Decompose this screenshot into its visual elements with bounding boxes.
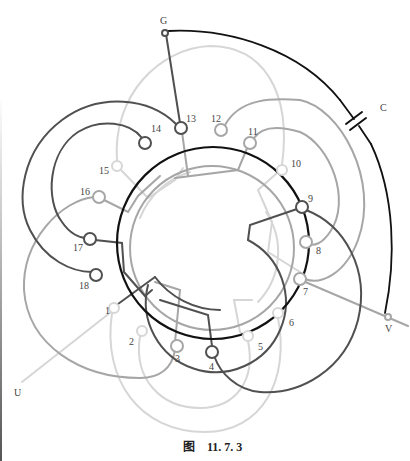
dark-winding-group — [23, 34, 361, 392]
slot-17-node — [84, 233, 96, 245]
label-slot-12: 12 — [211, 113, 221, 124]
lead-g — [166, 34, 180, 123]
light-loop-2-5 — [139, 336, 250, 408]
c-v-bridge — [359, 126, 371, 144]
terminal-v-node — [385, 314, 391, 320]
dark-inner-arc-2 — [155, 277, 220, 310]
label-slot-9: 9 — [308, 193, 313, 204]
label-v: V — [385, 323, 393, 334]
label-slot-16: 16 — [80, 186, 90, 197]
label-g: G — [160, 15, 167, 26]
caption-number: 11. 7. 3 — [207, 440, 242, 454]
slot-1-node — [109, 303, 119, 313]
figure-caption: 图 11. 7. 3 — [183, 440, 242, 454]
label-slot-2: 2 — [129, 336, 134, 347]
label-slot-4: 4 — [209, 361, 214, 372]
slot-14-node — [139, 137, 151, 149]
slot-11-node — [244, 137, 256, 149]
slot-3-node — [171, 340, 183, 352]
slot-2-node — [137, 326, 147, 336]
slot-9-node — [296, 201, 308, 213]
slot-10-node — [277, 165, 287, 175]
slot-12-node — [215, 124, 227, 136]
light-inner-arc — [140, 172, 190, 218]
label-slot-17: 17 — [73, 242, 83, 253]
g-to-c-arc — [168, 31, 340, 100]
dark-loop-9-4 — [215, 210, 361, 392]
label-slot-5: 5 — [258, 341, 263, 352]
slot-7-node — [294, 273, 306, 285]
slot-5-node — [243, 331, 253, 341]
slot-4-node — [206, 346, 218, 358]
label-slot-13: 13 — [186, 113, 196, 124]
label-slot-14: 14 — [151, 123, 161, 134]
slot-8-node — [300, 236, 312, 248]
slot-18-node — [90, 269, 102, 281]
g-c-bridge — [340, 100, 354, 119]
label-u: U — [14, 387, 22, 398]
winding-diagram: G C U V 1 2 3 4 5 6 7 8 9 10 11 12 13 14… — [0, 0, 410, 461]
label-slot-18: 18 — [79, 280, 89, 291]
caption-prefix: 图 — [183, 440, 195, 454]
slot-16-node — [93, 191, 105, 203]
light-loop-1-6 — [110, 313, 280, 432]
dark-loop-14-17 — [52, 123, 142, 238]
slot-6-node — [273, 308, 283, 318]
label-c: C — [380, 102, 387, 113]
lead-v — [303, 281, 408, 326]
c-to-v-arc — [371, 144, 392, 313]
label-slot-1: 1 — [105, 305, 110, 316]
label-slot-10: 10 — [291, 158, 301, 169]
terminal-g-node — [162, 30, 168, 36]
dark-connector-17 — [95, 240, 152, 296]
labels: G C U V 1 2 3 4 5 6 7 8 9 10 11 12 13 14… — [14, 15, 393, 398]
label-slot-7: 7 — [303, 286, 308, 297]
label-slot-3: 3 — [175, 353, 180, 364]
light-winding-group — [22, 46, 300, 432]
slot-15-node — [112, 161, 122, 171]
label-slot-6: 6 — [289, 317, 294, 328]
mid-loop-16-3 — [24, 197, 175, 378]
label-slot-8: 8 — [316, 245, 321, 256]
label-slot-15: 15 — [99, 165, 109, 176]
label-slot-11: 11 — [248, 126, 258, 137]
